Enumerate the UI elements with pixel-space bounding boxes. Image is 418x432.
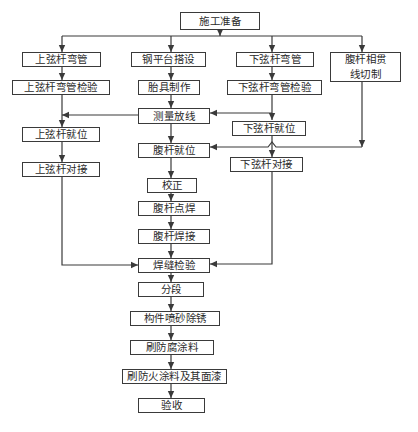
node-lower-chord-bending: 下弦杆弯管 (236, 52, 314, 67)
node-lower-chord-bending-inspection: 下弦杆弯管检验 (227, 80, 322, 95)
node-fireproof-coating-topcoat: 刷防火涂料及其面漆 (122, 369, 227, 384)
node-upper-chord-butt-joint: 上弦杆对接 (22, 162, 100, 177)
node-weld-inspection: 焊缝检验 (138, 258, 210, 273)
node-web-member-spot-welding: 腹杆点焊 (138, 201, 210, 216)
node-web-intersection-cutting: 腹杆相贯 线切制 (330, 52, 401, 82)
flowchart-canvas: 施工准备 上弦杆弯管 钢平台搭设 下弦杆弯管 腹杆相贯 线切制 上弦杆弯管检验 … (0, 0, 418, 432)
node-web-member-welding: 腹杆焊接 (138, 229, 210, 244)
node-anticorrosive-coating: 刷防腐涂料 (130, 340, 214, 355)
node-start: 施工准备 (180, 12, 260, 30)
node-upper-chord-bending: 上弦杆弯管 (22, 52, 101, 67)
node-steel-platform-setup: 钢平台搭设 (131, 52, 206, 67)
node-lower-chord-positioning: 下弦杆就位 (232, 121, 306, 136)
node-upper-chord-bending-inspection: 上弦杆弯管检验 (12, 80, 110, 95)
node-jig-fabrication: 胎具制作 (138, 80, 200, 95)
node-sandblasting-derusting: 构件喷砂除锈 (130, 311, 220, 326)
node-acceptance: 验收 (138, 398, 205, 413)
node-upper-chord-positioning: 上弦杆就位 (22, 127, 100, 142)
node-correction: 校正 (147, 178, 197, 193)
node-web-member-positioning: 腹杆就位 (138, 143, 210, 158)
node-lower-chord-butt-joint: 下弦杆对接 (230, 157, 303, 172)
node-survey-layout: 测量放线 (138, 108, 210, 124)
node-segmentation: 分段 (138, 282, 204, 297)
